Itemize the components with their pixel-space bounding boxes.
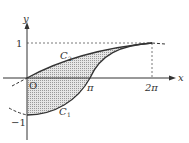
curve-c1-extension-left	[9, 108, 27, 115]
graph-figure: y x O 1 −1 π 2π C 2 C 1	[0, 0, 189, 143]
x-axis-arrow-icon	[169, 76, 176, 81]
svg-text:1: 1	[67, 111, 71, 118]
tick-label-y-1: 1	[16, 38, 22, 49]
curve-c2-label: C 2	[60, 50, 72, 62]
tick-label-y-neg1: −1	[11, 117, 26, 128]
curve-c2-extension-right	[152, 43, 165, 44]
svg-text:2: 2	[68, 55, 72, 62]
curve-c1-label: C 1	[59, 106, 71, 118]
origin-label: O	[29, 80, 37, 91]
svg-text:C: C	[60, 50, 68, 61]
svg-text:C: C	[59, 106, 67, 117]
curve-c2-extension-left	[12, 78, 27, 86]
tick-label-x-2pi: 2π	[144, 82, 158, 93]
tick-label-x-pi: π	[86, 82, 94, 93]
x-axis-label: x	[178, 72, 184, 83]
y-axis-label: y	[22, 13, 29, 24]
